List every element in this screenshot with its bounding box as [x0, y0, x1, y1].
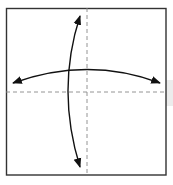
origami-diagram — [0, 0, 173, 185]
